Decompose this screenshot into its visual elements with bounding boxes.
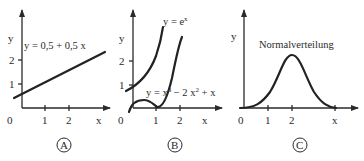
svg-text:x: x (332, 114, 338, 126)
y-label: y (8, 32, 14, 44)
svg-text:1: 1 (265, 114, 271, 126)
panel-a: y 2 1 0 1 2 x y = 0,5 + 0,5 x A (7, 10, 110, 152)
normal-curve (240, 55, 336, 108)
svg-text:y: y (119, 32, 125, 44)
title-label: Normalverteilung (259, 39, 334, 50)
svg-text:1: 1 (9, 78, 15, 90)
svg-text:A: A (60, 139, 68, 151)
exp-curve (126, 27, 163, 91)
svg-text:y: y (231, 30, 237, 42)
svg-text:2: 2 (177, 114, 183, 126)
svg-text:1: 1 (119, 79, 125, 91)
panel-c: y 0 1 2 x Normalverteilung C (231, 10, 358, 152)
cubic-equation-label: y = x3 − 2 x2 + x (146, 86, 216, 98)
svg-text:B: B (171, 139, 178, 151)
svg-text:2: 2 (9, 54, 15, 66)
svg-text:2: 2 (289, 114, 295, 126)
function-graphs-figure: y 2 1 0 1 2 x y = 0,5 + 0,5 x A y 2 1 0 … (0, 0, 364, 161)
svg-text:C: C (296, 139, 303, 151)
svg-text:x: x (96, 114, 102, 126)
svg-text:0: 0 (238, 114, 244, 126)
panel-b: y 2 1 0 1 2 x y = ex y = x3 − 2 x2 + x B (118, 10, 222, 152)
svg-text:1: 1 (153, 114, 159, 126)
svg-text:1: 1 (42, 114, 48, 126)
svg-text:0: 0 (118, 114, 124, 126)
svg-text:2: 2 (66, 114, 72, 126)
svg-text:0: 0 (7, 114, 13, 126)
exp-equation-label: y = ex (163, 15, 188, 27)
cubic-curve (129, 37, 182, 112)
linear-curve (14, 52, 105, 98)
svg-text:x: x (202, 114, 208, 126)
equation-label: y = 0,5 + 0,5 x (24, 40, 86, 51)
svg-text:2: 2 (119, 55, 125, 67)
